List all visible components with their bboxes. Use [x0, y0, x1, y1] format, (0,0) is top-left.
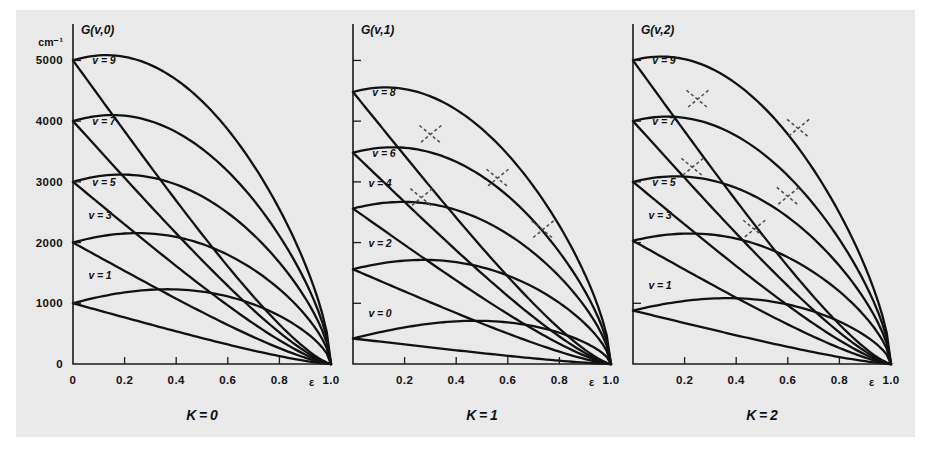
- panel-axis-title: G(v,2): [641, 23, 674, 37]
- x-tick-label: 0.8: [271, 374, 288, 386]
- level-curve-upper: [73, 233, 331, 364]
- level-label: v = 6: [372, 147, 396, 159]
- x-tick-label: 0.6: [219, 374, 236, 386]
- y-tick-label: 2000: [36, 237, 63, 249]
- x-axis-label: ε: [309, 376, 315, 388]
- avoided-crossing-marker: [787, 119, 809, 137]
- panel-caption: K = 2: [746, 407, 778, 423]
- level-label: v = 4: [368, 177, 392, 189]
- panel-caption: K = 0: [186, 407, 218, 423]
- y-tick-label: 3000: [36, 176, 63, 188]
- x-tick-label: 1.0: [602, 374, 619, 386]
- level-label: v = 5: [92, 176, 116, 188]
- x-tick-label: 0.2: [116, 374, 133, 386]
- level-label: v = 3: [88, 209, 112, 221]
- panel-axis-title: G(v,0): [81, 23, 114, 37]
- panel-axis-title: G(v,1): [361, 23, 394, 37]
- x-tick-label: 0.4: [448, 374, 465, 386]
- avoided-crossing-marker: [419, 126, 441, 144]
- x-tick-label: 0.6: [779, 374, 796, 386]
- y-tick-label: 1000: [36, 297, 63, 309]
- level-label: v = 3: [648, 209, 672, 221]
- level-curve-upper: [633, 234, 891, 364]
- x-axis-label: ε: [589, 376, 595, 388]
- x-tick-label: 0.4: [728, 374, 745, 386]
- y-tick-label: 5000: [36, 54, 63, 66]
- panel-K0: 00.20.40.60.81.0010002000300040005000G(v…: [36, 23, 340, 423]
- panel-K2: 0.20.40.60.81.0G(v,2)εv = 9v = 7v = 5v =…: [633, 23, 900, 423]
- level-label: v = 1: [88, 269, 112, 281]
- level-label: v = 9: [92, 54, 116, 66]
- x-tick-label: 0.2: [676, 374, 693, 386]
- level-label: v = 2: [368, 237, 392, 249]
- y-axis-unit-label: cm⁻¹: [38, 36, 63, 48]
- y-tick-label: 0: [56, 358, 63, 370]
- x-tick-label: 1.0: [882, 374, 899, 386]
- level-label: v = 7: [652, 115, 676, 127]
- figure-panel-group: 00.20.40.60.81.0010002000300040005000G(v…: [16, 10, 915, 437]
- level-curve-upper: [73, 115, 331, 364]
- y-tick-label: 4000: [36, 115, 63, 127]
- avoided-crossing-marker: [681, 158, 703, 176]
- level-label: v = 9: [652, 54, 676, 66]
- panel-caption: K = 1: [466, 407, 498, 423]
- level-label: v = 5: [652, 176, 676, 188]
- level-label: v = 7: [92, 115, 116, 127]
- x-tick-label: 0.2: [396, 374, 413, 386]
- three-panel-term-diagram: 00.20.40.60.81.0010002000300040005000G(v…: [16, 10, 915, 437]
- x-tick-label: 0.6: [499, 374, 516, 386]
- avoided-crossing-marker: [486, 169, 508, 187]
- panel-K1: 0.20.40.60.81.0G(v,1)εv = 8v = 6v = 4v =…: [353, 23, 620, 423]
- x-axis-label: ε: [869, 376, 875, 388]
- level-label: v = 8: [372, 86, 396, 98]
- level-label: v = 1: [648, 279, 672, 291]
- x-tick-label: 0.8: [831, 374, 848, 386]
- avoided-crossing-marker: [687, 90, 709, 108]
- x-tick-label: 0: [70, 374, 77, 386]
- x-tick-label: 0.8: [551, 374, 568, 386]
- x-tick-label: 0.4: [168, 374, 185, 386]
- level-curve-lower: [73, 121, 331, 364]
- x-tick-label: 1.0: [322, 374, 339, 386]
- avoided-crossing-marker: [777, 187, 799, 205]
- level-label: v = 0: [368, 307, 392, 319]
- axis-frame: [633, 24, 891, 364]
